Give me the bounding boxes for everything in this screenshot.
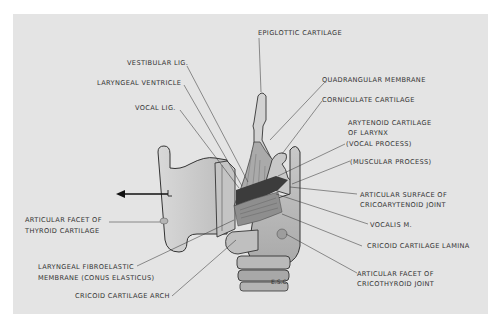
label-epiglottic-cartilage: EPIGLOTTIC CARTILAGE (258, 28, 342, 38)
label-cricoid-arch: CRICOID CARTILAGE ARCH (75, 291, 170, 301)
label-facet-thyroid-line1: ARTICULAR FACET OF (25, 215, 102, 225)
label-conus-line2: MEMBRANE (CONUS ELASTICUS) (38, 273, 154, 283)
label-facet-cricothyroid-line1: ARTICULAR FACET OF (357, 269, 434, 279)
label-quadrangular-membrane: QUADRANGULAR MEMBRANE (322, 75, 426, 85)
label-vocalis-m: VOCALIS M. (370, 220, 412, 230)
label-vocal-lig: VOCAL LIG. (135, 103, 176, 113)
label-vocal-process: (VOCAL PROCESS) (346, 139, 412, 149)
label-articular-surface-line1: ARTICULAR SURFACE OF (360, 190, 447, 200)
label-arytenoid-line2: OF LARYNX (348, 128, 388, 138)
label-muscular-process: (MUSCULAR PROCESS) (350, 157, 431, 167)
label-vestibular-lig: VESTIBULAR LIG. (127, 58, 188, 68)
label-corniculate-cartilage: CORNICULATE CARTILAGE (322, 95, 415, 105)
label-cricoid-lamina: CRICOID CARTILAGE LAMINA (367, 241, 470, 251)
label-laryngeal-ventricle: LARYNGEAL VENTRICLE (97, 78, 181, 88)
label-arytenoid-line1: ARYTENOID CARTILAGE (348, 118, 431, 128)
artist-signature: E.S.C. (271, 278, 289, 285)
label-facet-thyroid-line2: THYROID CARTILAGE (25, 226, 100, 236)
label-conus-line1: LARYNGEAL FIBROELASTIC (38, 262, 134, 272)
label-facet-cricothyroid-line2: CRICOTHYROID JOINT (357, 279, 434, 289)
label-articular-surface-line2: CRICOARYTENOID JOINT (360, 200, 446, 210)
